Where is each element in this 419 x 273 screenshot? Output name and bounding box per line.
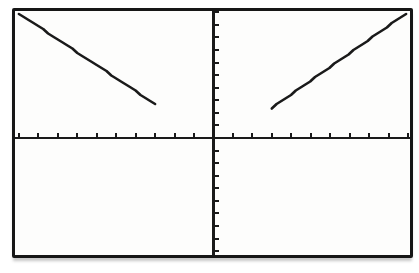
axes	[15, 11, 410, 255]
calculator-screen-frame	[12, 8, 413, 258]
page-background	[0, 0, 419, 273]
graph-plot	[15, 11, 410, 255]
series-right-branch	[272, 14, 406, 109]
series-left-branch	[19, 14, 155, 104]
